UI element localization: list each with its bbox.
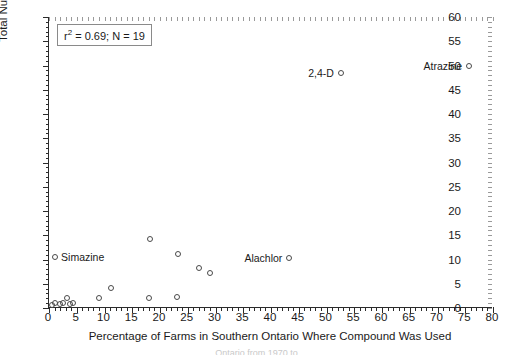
x-tick-minor [388, 307, 389, 311]
right-frame-tick [488, 36, 492, 37]
right-frame-tick [488, 167, 492, 168]
x-tick-minor [55, 307, 56, 311]
x-tick-label: 25 [174, 312, 200, 323]
x-tick-minor [371, 307, 372, 311]
x-tick-minor [315, 307, 316, 311]
right-frame-tick [488, 245, 492, 246]
y-tick-minor [46, 104, 50, 105]
x-tick-label: 35 [229, 312, 255, 323]
data-point [70, 300, 76, 306]
y-tick-minor [46, 22, 50, 23]
y-tick-minor [46, 56, 50, 57]
right-frame-tick [488, 153, 492, 154]
top-frame-tick [310, 17, 311, 21]
top-frame-tick [221, 17, 222, 21]
right-frame-tick [488, 240, 492, 241]
top-frame-tick [354, 17, 355, 21]
y-tick-minor [46, 201, 50, 202]
r-squared-annotation: r2 = 0.69; N = 19 [57, 24, 152, 46]
x-tick-minor [71, 307, 72, 311]
x-tick-minor [476, 307, 477, 311]
y-tick-minor [46, 240, 50, 241]
x-tick-minor [221, 307, 222, 311]
data-point [60, 300, 66, 306]
y-tick-minor [46, 167, 50, 168]
top-frame-tick [110, 17, 111, 21]
right-frame-tick [488, 211, 492, 212]
y-tick-minor [46, 216, 50, 217]
top-frame-tick [249, 17, 250, 21]
x-tick-minor [116, 307, 117, 311]
x-tick-minor [82, 307, 83, 311]
right-frame-tick [488, 109, 492, 110]
y-tick-major [43, 163, 49, 164]
right-frame-tick [488, 99, 492, 100]
y-tick-minor [46, 274, 50, 275]
top-frame-tick [338, 17, 339, 21]
x-tick-minor [110, 307, 111, 311]
y-tick-minor [46, 85, 50, 86]
data-point [196, 265, 202, 271]
y-tick-label: 50 [435, 60, 461, 71]
top-frame-tick [349, 17, 350, 21]
top-frame-tick [399, 17, 400, 21]
x-tick-minor [93, 307, 94, 311]
top-frame-tick [304, 17, 305, 21]
x-tick-minor [343, 307, 344, 311]
x-tick-minor [304, 307, 305, 311]
data-point [207, 270, 213, 276]
x-tick-minor [421, 307, 422, 311]
y-tick-minor [46, 95, 50, 96]
top-frame-tick [243, 17, 244, 21]
top-frame-tick [99, 17, 100, 21]
top-frame-tick [232, 17, 233, 21]
top-frame-tick [154, 17, 155, 21]
right-frame-tick [488, 95, 492, 96]
top-frame-tick [315, 17, 316, 21]
top-frame-tick [193, 17, 194, 21]
right-frame-tick [488, 269, 492, 270]
y-tick-label: 60 [435, 12, 461, 23]
right-frame-tick [488, 235, 492, 236]
top-frame-tick [293, 17, 294, 21]
x-tick-minor [232, 307, 233, 311]
top-frame-tick [71, 17, 72, 21]
y-tick-label: 15 [435, 230, 461, 241]
x-tick-label: 70 [424, 312, 450, 323]
top-frame-tick [127, 17, 128, 21]
top-frame-tick [55, 17, 56, 21]
top-frame-tick [321, 17, 322, 21]
x-tick-label: 5 [63, 312, 89, 323]
top-frame-tick [105, 17, 106, 21]
y-tick-major [43, 90, 49, 91]
y-tick-major [43, 284, 49, 285]
x-tick-minor [88, 307, 89, 311]
y-tick-major [43, 187, 49, 188]
right-frame-tick [488, 298, 492, 299]
x-tick-minor [293, 307, 294, 311]
top-frame-tick [66, 17, 67, 21]
right-frame-tick [488, 201, 492, 202]
y-tick-minor [46, 61, 50, 62]
right-frame-tick [488, 70, 492, 71]
data-point [466, 63, 472, 69]
top-frame-tick [426, 17, 427, 21]
data-point [108, 285, 114, 291]
top-frame-tick [404, 17, 405, 21]
top-frame-tick [160, 17, 161, 21]
right-frame-tick [488, 56, 492, 57]
right-frame-tick [488, 230, 492, 231]
x-tick-minor [254, 307, 255, 311]
x-tick-minor [204, 307, 205, 311]
scatter-plot-figure: Total Number of Accidental Releases in O… [0, 0, 513, 355]
y-tick-major [43, 114, 49, 115]
top-frame-tick [77, 17, 78, 21]
y-tick-minor [46, 99, 50, 100]
y-tick-label: 40 [435, 109, 461, 120]
right-frame-tick [488, 216, 492, 217]
x-tick-minor [66, 307, 67, 311]
x-tick-minor [288, 307, 289, 311]
y-tick-label: 35 [435, 133, 461, 144]
top-frame-tick [282, 17, 283, 21]
y-tick-minor [46, 206, 50, 207]
